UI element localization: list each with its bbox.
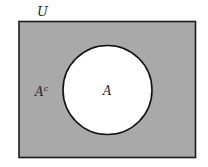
venn-diagram: U A Ac xyxy=(0,0,208,167)
complement-label-base: A xyxy=(34,85,44,99)
set-a-label: A xyxy=(102,84,112,98)
venn-diagram-canvas: U A Ac xyxy=(0,0,208,167)
complement-label-superscript: c xyxy=(44,84,49,93)
universe-label: U xyxy=(37,4,49,19)
